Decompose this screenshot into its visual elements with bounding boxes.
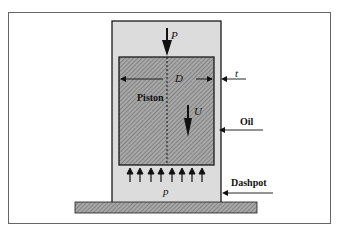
oil-label: Oil bbox=[240, 117, 253, 127]
piston-label: Piston bbox=[137, 93, 164, 103]
diameter-label: D bbox=[175, 73, 183, 84]
force-label: P bbox=[171, 30, 178, 41]
dashpot-label: Dashpot bbox=[231, 178, 267, 188]
base-plate bbox=[75, 202, 257, 213]
pressure-label: p bbox=[163, 186, 169, 197]
gap-label: t bbox=[235, 68, 238, 79]
velocity-label: U bbox=[194, 106, 202, 117]
